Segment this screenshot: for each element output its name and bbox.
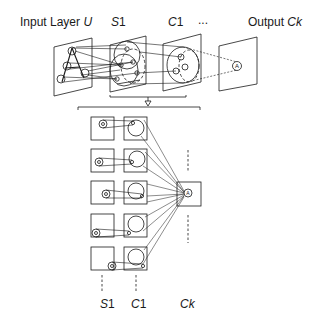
grid-connections-c1-ck xyxy=(141,120,184,264)
svg-text:A: A xyxy=(186,190,190,196)
grid-connections-s1-c1 xyxy=(96,120,143,270)
connections-c1-to-ck xyxy=(183,47,237,83)
c1-receptive-fields xyxy=(167,47,199,83)
network-diagram: A xyxy=(0,0,316,328)
continuation-dashes xyxy=(102,150,188,292)
plane-c1 xyxy=(163,34,201,91)
expand-bracket xyxy=(78,95,200,110)
s1-column xyxy=(91,117,116,270)
svg-text:A: A xyxy=(235,63,239,69)
